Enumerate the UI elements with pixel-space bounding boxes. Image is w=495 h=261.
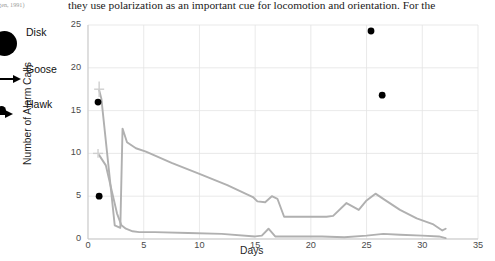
alarm-calls-line-chart: Number of Alarm Calls Days 0510152025 05… bbox=[0, 0, 495, 261]
error-bar-errorbar-lower bbox=[93, 149, 103, 158]
data-point-disk-point-2 bbox=[96, 193, 103, 200]
figure-root: (gen, 1991) they use polarization as an … bbox=[0, 0, 495, 261]
data-point-disk-point-4 bbox=[379, 92, 386, 99]
series-line-trace-a bbox=[99, 90, 446, 230]
data-point-disk-point-1 bbox=[95, 99, 102, 106]
error-bar-errorbar-upper bbox=[94, 81, 104, 96]
data-point-disk-point-3 bbox=[368, 28, 375, 35]
plot-canvas bbox=[0, 0, 495, 261]
